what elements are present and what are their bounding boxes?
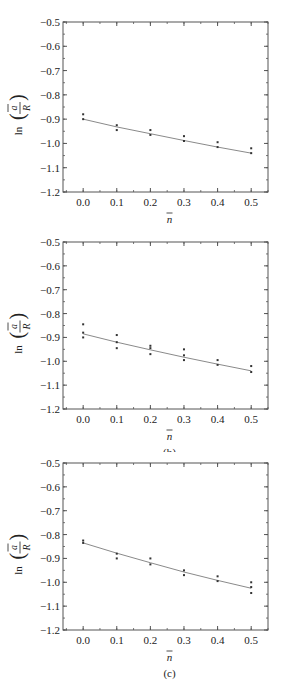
fit-line (83, 543, 251, 588)
y-tick-label: −0.5 (40, 236, 60, 248)
data-point (217, 359, 219, 361)
data-point (116, 129, 118, 131)
data-point (116, 341, 118, 343)
svg-text:(: ( (6, 553, 29, 560)
y-axis-label: ln(aR) (6, 534, 32, 575)
data-point (82, 113, 84, 115)
y-tick-label: −0.6 (40, 481, 60, 493)
x-tick-label: 0.0 (76, 413, 90, 425)
chart-panel-a: −0.5−0.6−0.7−0.8−0.9−1.0−1.1−1.20.00.10.… (0, 0, 285, 230)
data-point (149, 134, 151, 136)
y-tick-label: −0.6 (40, 260, 60, 272)
y-tick-label: −0.9 (40, 113, 60, 125)
data-point (250, 365, 252, 367)
chart-a: −0.5−0.6−0.7−0.8−0.9−1.0−1.1−1.20.00.10.… (0, 0, 285, 230)
fit-line (83, 334, 251, 371)
y-tick-label: −0.8 (40, 308, 60, 320)
svg-text:ln: ln (12, 566, 24, 575)
data-point (82, 336, 84, 338)
x-tick-label: 0.5 (244, 634, 258, 646)
y-tick-label: −1.1 (40, 379, 60, 391)
svg-text:R: R (21, 105, 32, 112)
data-point (183, 348, 185, 350)
data-point (250, 152, 252, 154)
data-point (82, 540, 84, 542)
fit-line (83, 119, 251, 153)
data-point (82, 542, 84, 544)
svg-text:(: ( (6, 332, 29, 339)
data-point (183, 359, 185, 361)
x-axis-label: n (167, 430, 173, 442)
data-point (116, 334, 118, 336)
svg-text:ln: ln (12, 345, 24, 354)
data-point (250, 371, 252, 373)
data-point (149, 353, 151, 355)
x-tick-label: 0.2 (144, 196, 158, 208)
svg-text:a: a (8, 545, 19, 550)
x-tick-label: 0.1 (110, 196, 124, 208)
chart-panel-b: −0.5−0.6−0.7−0.8−0.9−1.0−1.1−1.20.00.10.… (0, 222, 285, 452)
data-point (183, 569, 185, 571)
x-tick-label: 0.4 (211, 634, 225, 646)
y-tick-label: −1.0 (40, 576, 60, 588)
svg-text:a: a (8, 106, 19, 111)
svg-text:ln: ln (12, 126, 24, 135)
data-point (116, 347, 118, 349)
data-point (183, 135, 185, 137)
y-tick-label: −1.2 (40, 186, 60, 198)
y-tick-label: −0.7 (40, 284, 60, 296)
y-tick-label: −0.8 (40, 529, 60, 541)
svg-text:R: R (21, 544, 32, 551)
y-tick-label: −0.9 (40, 552, 60, 564)
y-tick-label: −0.9 (40, 331, 60, 343)
svg-text:n: n (167, 651, 173, 663)
chart-b: −0.5−0.6−0.7−0.8−0.9−1.0−1.1−1.20.00.10.… (0, 222, 285, 452)
y-tick-label: −1.2 (40, 403, 60, 415)
data-point (250, 147, 252, 149)
svg-text:n: n (167, 430, 173, 442)
x-tick-label: 0.1 (110, 634, 124, 646)
y-tick-label: −0.5 (40, 16, 60, 28)
data-point (82, 323, 84, 325)
plot-frame (63, 242, 268, 409)
data-point (217, 141, 219, 143)
x-tick-label: 0.3 (177, 413, 191, 425)
x-tick-label: 0.5 (244, 413, 258, 425)
y-tick-label: −0.8 (40, 89, 60, 101)
data-point (183, 354, 185, 356)
x-axis-label: n (167, 651, 173, 663)
svg-text:a: a (8, 324, 19, 329)
y-tick-label: −1.0 (40, 137, 60, 149)
data-point (217, 580, 219, 582)
x-tick-label: 0.3 (177, 634, 191, 646)
data-point (116, 553, 118, 555)
data-point (149, 345, 151, 347)
y-axis-label: ln(aR) (6, 313, 32, 354)
data-point (82, 118, 84, 120)
y-axis-label: ln(aR) (6, 94, 32, 135)
x-tick-label: 0.1 (110, 413, 124, 425)
x-tick-label: 0.5 (244, 196, 258, 208)
y-tick-label: −0.7 (40, 65, 60, 77)
y-tick-label: −1.2 (40, 624, 60, 636)
x-tick-label: 0.3 (177, 196, 191, 208)
data-point (149, 347, 151, 349)
data-point (250, 586, 252, 588)
data-point (116, 557, 118, 559)
x-tick-label: 0.2 (144, 634, 158, 646)
x-tick-label: 0.0 (76, 196, 90, 208)
data-point (217, 146, 219, 148)
data-point (183, 140, 185, 142)
data-point (149, 557, 151, 559)
svg-text:): ) (6, 94, 29, 101)
y-tick-label: −0.7 (40, 505, 60, 517)
svg-text:): ) (6, 534, 29, 541)
data-point (217, 575, 219, 577)
y-tick-label: −0.5 (40, 457, 60, 469)
plot-frame (63, 22, 268, 192)
data-point (116, 124, 118, 126)
svg-text:R: R (21, 323, 32, 330)
x-tick-label: 0.2 (144, 413, 158, 425)
x-tick-label: 0.4 (211, 196, 225, 208)
data-point (149, 563, 151, 565)
